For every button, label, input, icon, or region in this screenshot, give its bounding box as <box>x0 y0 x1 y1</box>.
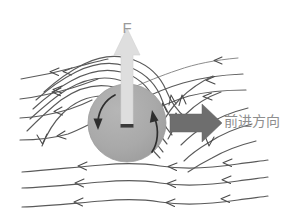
magnus-effect-diagram: F 前进方向 <box>0 0 285 224</box>
motion-direction-label: 前进方向 <box>224 114 280 128</box>
force-arrow-base-cap <box>121 124 134 128</box>
flow-arrowhead <box>168 163 177 171</box>
streamline-right-5 <box>188 141 256 172</box>
diagram-canvas: F <box>0 0 285 224</box>
flow-arrowhead <box>179 95 186 106</box>
streamline-lower-3 <box>22 196 268 207</box>
flow-arrowhead <box>75 179 84 187</box>
flow-arrowhead <box>167 180 176 188</box>
force-label: F <box>122 19 131 36</box>
flow-arrowhead <box>74 198 83 206</box>
streamline-lower-2 <box>22 177 268 188</box>
streamline-left-3 <box>20 100 92 118</box>
lower-streamlines-group <box>22 159 268 207</box>
